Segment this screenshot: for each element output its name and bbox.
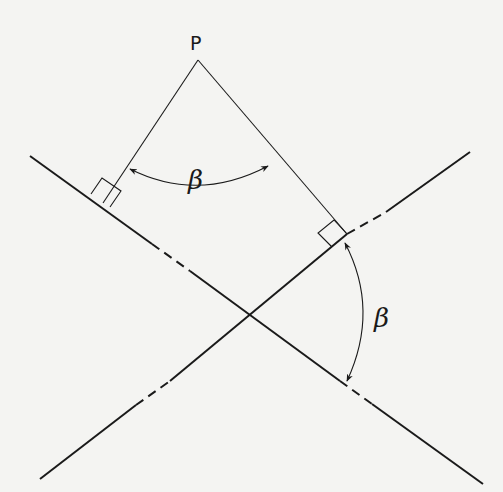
line-a-dashed-lower xyxy=(340,381,372,404)
line-b-solid-lower xyxy=(40,405,136,479)
perpendicular-right xyxy=(198,60,347,234)
right-angle-marker-right xyxy=(318,220,347,247)
line-a-solid-middle xyxy=(190,271,340,381)
perpendicular-left xyxy=(103,60,198,203)
line-b-solid-middle xyxy=(170,234,347,381)
angle-arc-right xyxy=(345,243,363,381)
line-b-dashed-upper xyxy=(347,212,386,234)
line-a-solid-upper xyxy=(30,156,152,244)
geometry-diagram: P β β xyxy=(0,0,503,492)
line-a-dashed-upper xyxy=(152,244,190,271)
perpendiculars xyxy=(103,60,347,234)
point-label: P xyxy=(190,32,201,54)
angle-label-right: β xyxy=(373,303,389,333)
line-b-dashed-lower xyxy=(136,381,170,405)
angle-label-top: β xyxy=(187,165,203,195)
line-b-solid-upper xyxy=(386,152,470,212)
line-a-solid-lower xyxy=(372,404,483,484)
